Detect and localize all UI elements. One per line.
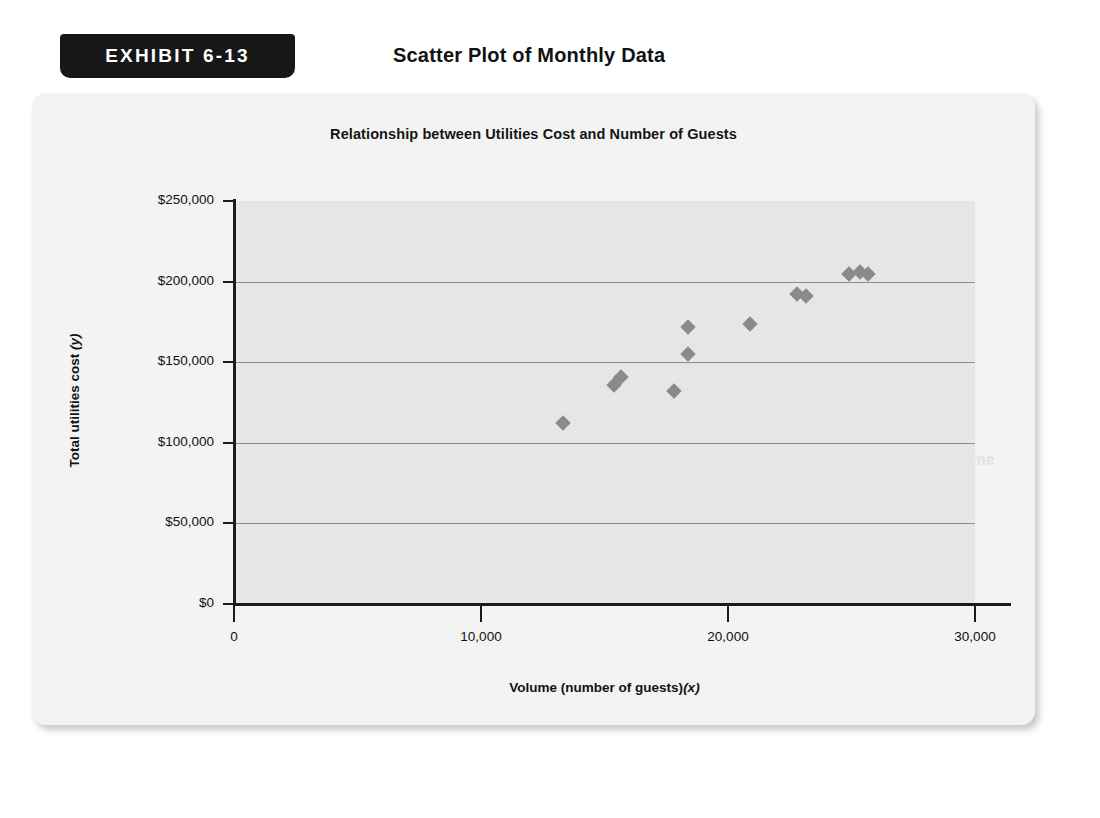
gridline bbox=[234, 362, 975, 363]
x-axis-tick bbox=[233, 604, 235, 622]
chart-panel: summarized datato create the scatter plo… bbox=[32, 93, 1035, 725]
gridline bbox=[234, 523, 975, 524]
x-axis-title-main: Volume (number of guests) bbox=[509, 680, 683, 695]
y-axis-tick-label: $0 bbox=[32, 604, 214, 619]
y-axis-tick bbox=[223, 361, 234, 363]
y-axis-tick-label: $150,000 bbox=[32, 362, 214, 377]
y-axis-line bbox=[233, 199, 236, 606]
exhibit-number-tag: EXHIBIT 6-13 bbox=[60, 34, 295, 78]
y-axis-tick-label: $50,000 bbox=[32, 523, 214, 538]
y-axis-tick bbox=[223, 522, 234, 524]
x-axis-tick bbox=[727, 604, 729, 622]
y-axis-title-main: Total utilities cost bbox=[67, 350, 82, 468]
y-axis-title: Total utilities cost (y) bbox=[67, 271, 82, 531]
x-axis-tick-label: 0 bbox=[230, 629, 238, 644]
x-axis-title: Volume (number of guests)(x) bbox=[234, 680, 975, 695]
y-axis-tick-label-text: $200,000 bbox=[32, 273, 214, 288]
y-axis-tick-label: $200,000 bbox=[32, 282, 214, 297]
y-axis-tick-label-text: $250,000 bbox=[32, 192, 214, 207]
chart-title: Relationship between Utilities Cost and … bbox=[32, 126, 1035, 142]
y-axis-tick bbox=[223, 200, 234, 202]
y-axis-tick-label-text: $100,000 bbox=[32, 434, 214, 449]
y-axis-tick-label: $100,000 bbox=[32, 443, 214, 458]
chart-panel-inner: summarized datato create the scatter plo… bbox=[32, 93, 1035, 725]
gridline bbox=[234, 443, 975, 444]
x-axis-tick bbox=[974, 604, 976, 622]
y-axis-tick-label-text: $50,000 bbox=[32, 514, 214, 529]
y-axis-tick bbox=[223, 442, 234, 444]
y-axis-tick bbox=[223, 281, 234, 283]
y-axis-tick-label: $250,000 bbox=[32, 201, 214, 216]
exhibit-title: Scatter Plot of Monthly Data bbox=[393, 44, 665, 67]
x-axis-tick bbox=[480, 604, 482, 622]
x-axis-tick-label: 10,000 bbox=[460, 629, 501, 644]
y-axis-tick-label-text: $150,000 bbox=[32, 353, 214, 368]
x-axis-tick-label: 30,000 bbox=[954, 629, 995, 644]
plot-area-background bbox=[234, 201, 975, 604]
y-axis-title-variable: (y) bbox=[67, 334, 82, 351]
gridline bbox=[234, 282, 975, 283]
exhibit-number-label: EXHIBIT 6-13 bbox=[105, 45, 250, 67]
exhibit-figure-root: EXHIBIT 6-13 Scatter Plot of Monthly Dat… bbox=[0, 0, 1100, 818]
x-axis-line bbox=[233, 603, 1011, 606]
x-axis-tick-label: 20,000 bbox=[707, 629, 748, 644]
y-axis-tick-label-text: $0 bbox=[32, 595, 214, 610]
x-axis-title-variable: (x) bbox=[683, 680, 700, 695]
